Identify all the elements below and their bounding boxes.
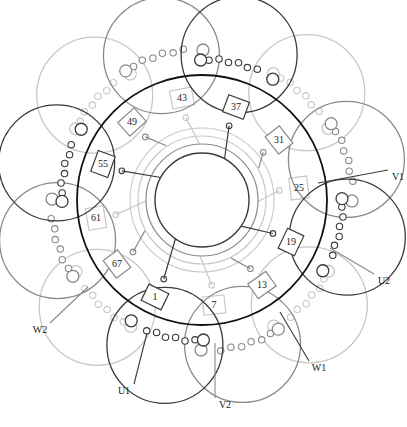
stator-ring (77, 75, 327, 325)
connection-bead (340, 214, 346, 220)
connection-bead (139, 57, 145, 63)
connection-bead (331, 242, 337, 248)
slot-number: 13 (257, 279, 267, 290)
connection-bead (225, 59, 231, 65)
connection-bead (58, 180, 64, 186)
connection-bead (294, 87, 300, 93)
coil-terminal-node (267, 73, 279, 85)
lead-wire (258, 190, 279, 201)
connection-bead (294, 306, 300, 312)
connection-bead (150, 55, 156, 61)
connection-bead (95, 301, 101, 307)
coil-terminal-node (75, 123, 87, 135)
connection-bead (104, 306, 110, 312)
connection-bead (244, 64, 250, 70)
junction-node (183, 115, 189, 121)
connection-bead (170, 50, 176, 56)
connection-bead (52, 226, 58, 232)
terminal-leader (50, 287, 88, 323)
terminal-label-v2: V2 (219, 399, 231, 410)
slot-number: 67 (112, 258, 122, 269)
coil-terminal-node (336, 193, 348, 205)
terminal-leader (330, 248, 374, 274)
connection-bead (339, 137, 345, 143)
coil-terminal-node (56, 195, 68, 207)
coil-terminal-node (325, 118, 337, 130)
connection-bead (346, 168, 352, 174)
connection-bead (238, 344, 244, 350)
lead-wire (200, 256, 212, 285)
coil-terminal-node (317, 265, 329, 277)
connection-bead (341, 148, 347, 154)
connection-bead (228, 344, 234, 350)
connection-bead (336, 223, 342, 229)
connection-bead (346, 157, 352, 163)
terminal-leader (134, 333, 147, 384)
connection-bead (61, 170, 67, 176)
slot-number: 31 (274, 134, 284, 145)
terminal-label-u2: U2 (378, 275, 390, 286)
connection-bead (52, 236, 58, 242)
connection-bead (172, 334, 178, 340)
lead-wire (122, 171, 161, 178)
terminal-label-v1: V1 (392, 171, 404, 182)
connection-bead (95, 93, 101, 99)
connection-bead (59, 256, 65, 262)
slot-number: 37 (231, 101, 241, 112)
terminal-label-w2: W2 (33, 324, 47, 335)
connection-bead (68, 142, 74, 148)
coil-terminal-node (120, 65, 132, 77)
connection-bead (159, 50, 165, 56)
terminal-label-u1: U1 (118, 385, 130, 396)
slot-number: 61 (91, 212, 101, 223)
inner-ring-2 (146, 144, 258, 256)
connection-bead (308, 292, 314, 298)
slot-number: 49 (127, 116, 137, 127)
terminal-label-w1: W1 (312, 362, 326, 373)
connection-bead (216, 56, 222, 62)
connection-bead (66, 151, 72, 157)
connection-bead (162, 334, 168, 340)
connection-bead (90, 292, 96, 298)
slot-number: 43 (177, 92, 187, 103)
connection-bead (336, 233, 342, 239)
connection-bead (254, 66, 260, 72)
connection-bead (308, 101, 314, 107)
connection-bead (103, 88, 109, 94)
connection-bead (57, 246, 63, 252)
connection-bead (153, 329, 159, 335)
coil-terminal-node (197, 334, 209, 346)
lead-wire (164, 239, 176, 279)
slot-number: 7 (212, 299, 217, 310)
coil-terminal-node (195, 54, 207, 66)
connection-bead (248, 339, 254, 345)
inner-ring-3 (138, 136, 266, 264)
slot-number: 55 (98, 158, 108, 169)
coil-terminal-node (125, 315, 137, 327)
winding-diagram: 1713192531374349556167V1U2W1V2U1W2 (0, 0, 407, 427)
slot-number: 25 (294, 182, 304, 193)
connection-bead (89, 102, 95, 108)
connection-bead (258, 337, 264, 343)
connection-bead (182, 338, 188, 344)
connection-bead (303, 301, 309, 307)
lead-wire (231, 258, 250, 269)
slot-number: 1 (153, 291, 158, 302)
inner-ring (155, 153, 249, 247)
inner-ring-4 (130, 128, 274, 272)
coil-terminal-node (67, 270, 79, 282)
coil-terminal-node (272, 323, 284, 335)
slot-number: 19 (286, 236, 296, 247)
connection-bead (303, 93, 309, 99)
connection-bead (235, 60, 241, 66)
lead-wire (186, 118, 200, 144)
connection-bead (330, 252, 336, 258)
connection-bead (62, 160, 68, 166)
